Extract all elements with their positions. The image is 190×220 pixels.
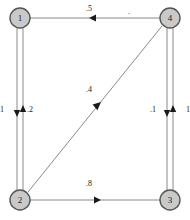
edge-weight-4-1: .5 bbox=[86, 5, 92, 13]
arrowhead-1-2 bbox=[14, 110, 20, 117]
edge-3-to-4 bbox=[170, 28, 176, 190]
arrowhead-2-1 bbox=[20, 105, 26, 112]
edge-weight-4-1-secondary: . bbox=[128, 8, 130, 16]
edge-2-to-3 bbox=[30, 197, 160, 204]
node-3[interactable]: 3 bbox=[160, 190, 180, 210]
node-1-label: 1 bbox=[18, 13, 23, 23]
arrowhead-2-4 bbox=[93, 102, 101, 110]
edge-weight-2-4: .4 bbox=[86, 86, 92, 94]
edge-weight-2-3: .8 bbox=[86, 180, 92, 188]
arrowhead-3-4 bbox=[170, 105, 176, 112]
node-4[interactable]: 4 bbox=[160, 8, 180, 28]
edge-4-to-1 bbox=[30, 15, 160, 22]
edge-weight-3-4: 1 bbox=[186, 106, 190, 114]
edge-weight-1-2: 1 bbox=[0, 106, 4, 114]
edge-weight-4-3: .1 bbox=[150, 106, 156, 114]
edge-2-to-1 bbox=[20, 28, 26, 190]
edge-4-to-3 bbox=[164, 28, 170, 190]
node-4-label: 4 bbox=[168, 13, 173, 23]
edge-2-to-4 bbox=[28, 26, 162, 192]
node-2-label: 2 bbox=[18, 195, 23, 205]
edge-weight-2-1: .2 bbox=[27, 106, 33, 114]
arrowhead-4-3 bbox=[164, 110, 170, 117]
arrowhead-4-1 bbox=[89, 15, 96, 22]
node-1[interactable]: 1 bbox=[10, 8, 30, 28]
arrowhead-2-3 bbox=[94, 197, 101, 204]
graph-figure: 1 4 2 3 .5 . 1 .2 .1 1 .4 .8 bbox=[0, 0, 190, 220]
node-3-label: 3 bbox=[168, 195, 173, 205]
edge-line-2-4 bbox=[28, 26, 162, 192]
node-2[interactable]: 2 bbox=[10, 190, 30, 210]
edge-1-to-2 bbox=[14, 28, 20, 190]
